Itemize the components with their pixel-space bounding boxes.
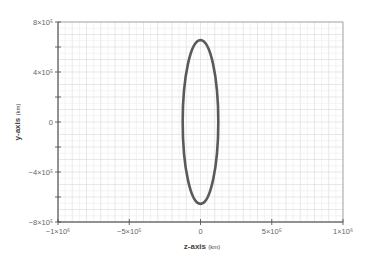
x-tick-label: −1×10⁶ xyxy=(46,227,70,236)
orbit-chart: −1×10⁶−5×10⁵05×10⁵1×10⁶ 8×10⁵4×10⁵0−4×10… xyxy=(0,0,372,269)
x-axis-title: z-axis (km) xyxy=(184,242,220,251)
y-tick-label: 8×10⁵ xyxy=(33,18,53,27)
x-tick-label: 5×10⁵ xyxy=(262,227,282,236)
y-tick-label: 0 xyxy=(49,118,53,127)
y-axis-title: y-axis (km) xyxy=(13,104,22,141)
y-tick-label: −4×10⁵ xyxy=(29,168,53,177)
y-tick-label: 4×10⁵ xyxy=(33,68,53,77)
y-tick-labels: 8×10⁵4×10⁵0−4×10⁵−8×10⁵ xyxy=(29,18,53,227)
tick-marks xyxy=(55,22,343,225)
x-tick-labels: −1×10⁶−5×10⁵05×10⁵1×10⁶ xyxy=(46,227,353,236)
x-tick-label: 0 xyxy=(198,227,202,236)
x-tick-label: 1×10⁶ xyxy=(333,227,353,236)
x-tick-label: −5×10⁵ xyxy=(117,227,141,236)
y-tick-label: −8×10⁵ xyxy=(29,218,53,227)
grid xyxy=(58,22,343,222)
